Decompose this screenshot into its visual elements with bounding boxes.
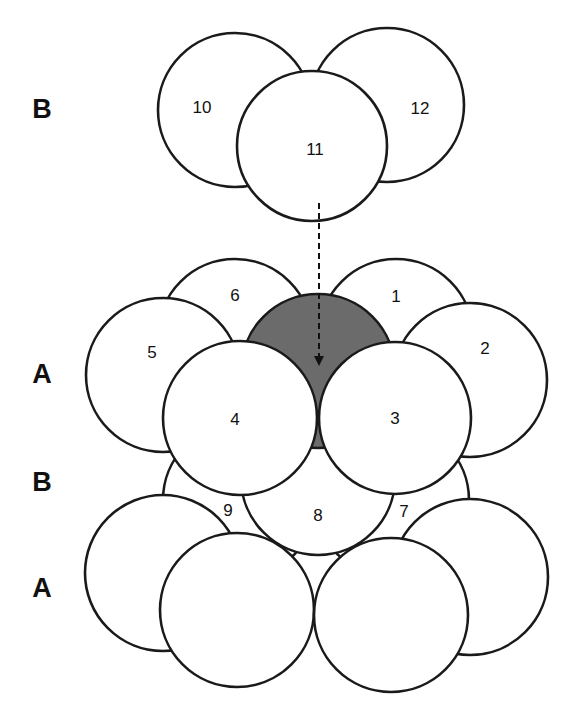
layer-label-middle-b: B: [32, 467, 52, 497]
layer-label-bottom-a: A: [32, 573, 52, 603]
sphere-packing-diagram: 1 2 3 4 5 6 7 8 9 10 11 12 B A B A: [0, 0, 577, 717]
sphere-4: [163, 341, 317, 495]
layer-label-top-b: B: [32, 94, 52, 124]
label-2: 2: [480, 339, 489, 358]
label-11: 11: [306, 140, 324, 159]
layer-label-upper-a: A: [32, 359, 52, 389]
label-5: 5: [147, 343, 156, 362]
label-4: 4: [230, 410, 239, 429]
label-1: 1: [391, 287, 400, 306]
label-12: 12: [411, 99, 430, 118]
label-9: 9: [223, 501, 232, 520]
label-3: 3: [390, 409, 399, 428]
layer-labels: B A B A: [32, 94, 52, 603]
bottom-sphere-front-left: [160, 533, 314, 687]
label-7: 7: [399, 502, 408, 521]
label-10: 10: [193, 98, 212, 117]
bottom-sphere-front-right: [314, 538, 468, 692]
top-b-layer: [158, 28, 464, 221]
label-6: 6: [230, 286, 239, 305]
label-8: 8: [313, 506, 322, 525]
